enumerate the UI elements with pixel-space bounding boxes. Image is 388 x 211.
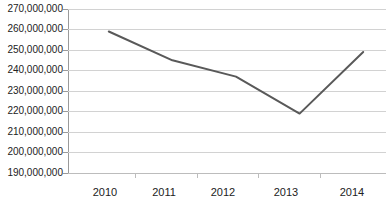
y-axis-tick-label: 250,000,000: [7, 45, 63, 55]
y-axis-tick-label: 270,000,000: [7, 4, 63, 14]
x-axis-tick-label: 2014: [322, 186, 382, 199]
plot-area: [68, 9, 386, 173]
x-axis-tick-label: 2010: [75, 186, 135, 199]
x-axis-tick: [320, 173, 321, 178]
x-axis-tick: [258, 173, 259, 178]
line-chart: 270,000,000 260,000,000 250,000,000 240,…: [0, 0, 388, 211]
y-axis-tick-label: 240,000,000: [7, 65, 63, 75]
y-axis-tick-label: 190,000,000: [7, 168, 63, 178]
y-axis-tick-label: 260,000,000: [7, 24, 63, 34]
y-axis-tick-label: 210,000,000: [7, 127, 63, 137]
x-axis-tick-label: 2011: [134, 186, 194, 199]
data-series-line: [68, 9, 386, 173]
x-axis-tick: [197, 173, 198, 178]
x-axis-tick-label: 2012: [193, 186, 253, 199]
x-axis-tick: [135, 173, 136, 178]
y-axis-tick-label: 220,000,000: [7, 106, 63, 116]
x-axis-line: [68, 173, 386, 174]
y-axis-tick-label: 230,000,000: [7, 86, 63, 96]
x-axis-tick-label: 2013: [256, 186, 316, 199]
y-axis-tick-label: 200,000,000: [7, 147, 63, 157]
